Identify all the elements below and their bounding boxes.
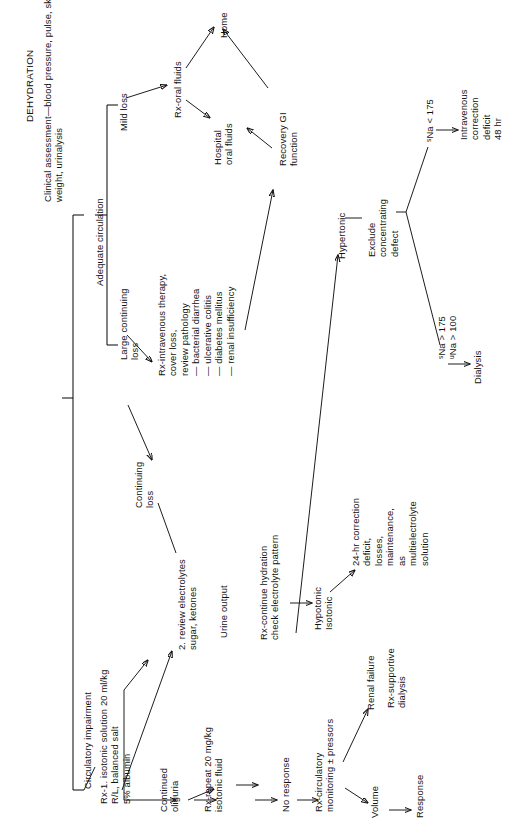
node-adequate-circulation: Adequate circulation	[94, 198, 105, 286]
sna-gt-175-value: Na > 175	[436, 316, 447, 356]
node-hypotonic-isotonic: Hypotonic Isotonic	[312, 587, 335, 630]
node-rx-repeat: Rx-repeat 20 mg/kg isotonic fluid	[202, 727, 225, 812]
node-sna-gt-175: sNa > 175	[436, 316, 447, 359]
flowchart-figure: DEHYDRATION Clinical assessment—blood pr…	[0, 0, 506, 824]
node-rx-circulatory-monitoring: Rx-circulatory monitoring ± pressors	[313, 719, 336, 812]
node-mild-loss: Mild loss	[118, 93, 129, 131]
node-recovery-gi-function: Recovery GI function	[277, 112, 300, 166]
node-clinical-assessment: Clinical assessment—blood pressure, puls…	[42, 0, 65, 202]
node-exclude-concentrating-defect: Exclude concentrating defect	[366, 199, 400, 257]
node-hypertonic: Hypertonic	[336, 213, 347, 259]
node-volume: Volume	[369, 786, 380, 818]
node-continued-oliguria: Continued oliguria	[158, 768, 181, 812]
node-dialysis: Dialysis	[472, 351, 483, 385]
node-urine-output: Urine output	[218, 585, 229, 638]
node-hospital-oral-fluids: Hospital oral fluids	[212, 123, 235, 165]
node-rx-continue-hydration: Rx-continue hydration check electrolyte …	[258, 535, 281, 640]
node-large-continuing-loss: Large continuing loss	[118, 288, 141, 360]
node-una-gt-100: uNa > 100	[447, 316, 458, 359]
node-rx-isotonic-solution: Rx-1. isotonic solution 20 ml/kg R/L, ba…	[98, 669, 132, 804]
node-review-electrolytes: 2. review electrolytes sugar, ketones	[176, 559, 199, 650]
node-intravenous-correction: Intravenous correction deficit 48 hr	[458, 89, 504, 140]
sna-gt-175-superscript: s	[437, 356, 444, 359]
una-gt-100-value: Na > 100	[447, 316, 458, 356]
node-rx-supportive-dialysis: Rx-supportive dialysis	[385, 648, 408, 708]
node-sna-lt-175: sNa < 175	[424, 99, 435, 142]
node-24hr-correction: 24-hr correction deficit, losses, mainte…	[350, 498, 430, 566]
node-home: Home	[218, 12, 229, 38]
node-rx-intravenous-therapy: Rx-intravenous therapy, cover loss, revi…	[156, 274, 236, 376]
node-rx-oral-fluids: Rx-oral fluids	[172, 61, 183, 118]
sna-lt-175-value: Na < 175	[424, 99, 435, 139]
node-circulatory-impairment: Circulatory impairment	[82, 692, 93, 789]
node-renal-failure: Renal failure	[365, 655, 376, 710]
node-no-response: No response	[280, 757, 291, 812]
node-response: Response	[414, 775, 425, 818]
sna-lt-175-superscript: s	[425, 139, 432, 142]
node-dehydration: DEHYDRATION	[24, 50, 36, 122]
node-continuing-loss: Continuing loss	[133, 462, 156, 508]
una-gt-100-superscript: u	[448, 355, 455, 359]
